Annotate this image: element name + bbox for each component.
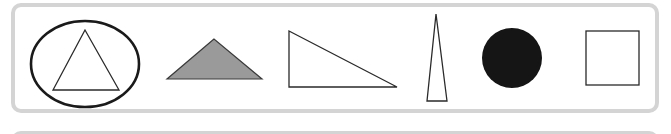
gray-obtuse-triangle <box>167 39 262 79</box>
equilateral-triangle <box>53 30 119 90</box>
ellipse-outline <box>31 21 139 107</box>
tall-isosceles-triangle <box>427 14 447 101</box>
right-triangle <box>289 31 397 87</box>
square <box>586 31 639 85</box>
black-circle <box>482 28 542 88</box>
shapes-canvas <box>0 0 671 134</box>
ellipse-with-triangle <box>31 21 139 107</box>
